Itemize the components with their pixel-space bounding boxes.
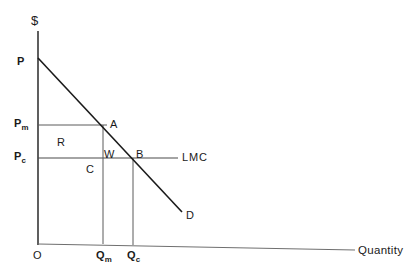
quantity-label-qm-sub: m — [105, 255, 112, 264]
quantity-label-qc-sub: c — [136, 255, 141, 264]
origin-label: O — [33, 250, 42, 261]
quantity-label-qm: Qm — [96, 250, 112, 264]
price-label-pm-sub: m — [22, 123, 29, 132]
point-label-c: C — [86, 164, 94, 175]
price-label-pc: Pc — [14, 151, 26, 165]
demand-curve — [38, 58, 182, 212]
quantity-label-qc: Qc — [127, 250, 140, 264]
price-label-pm-base: P — [14, 117, 22, 129]
x-axis-label: Quantity — [358, 245, 403, 257]
region-label-r: R — [57, 137, 65, 148]
quantity-label-qm-base: Q — [96, 249, 105, 261]
point-label-b: B — [136, 149, 144, 160]
x-axis — [38, 244, 355, 250]
quantity-label-qc-base: Q — [127, 249, 136, 261]
economics-diagram: $ Quantity O P Pm Pc Qm Qc A B C R W D L… — [0, 0, 416, 278]
price-label-pc-base: P — [14, 150, 22, 162]
curve-label-d: D — [186, 210, 195, 221]
price-label-pc-sub: c — [22, 156, 27, 165]
point-label-a: A — [110, 119, 118, 130]
y-axis-label: $ — [31, 14, 39, 27]
price-label-pm: Pm — [14, 118, 29, 132]
price-label-p: P — [17, 56, 25, 67]
region-label-w: W — [104, 149, 115, 160]
curve-label-lmc: LMC — [182, 152, 208, 163]
